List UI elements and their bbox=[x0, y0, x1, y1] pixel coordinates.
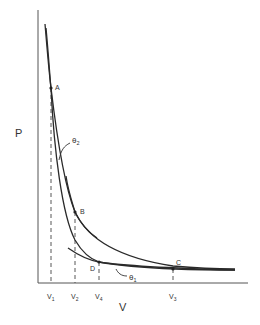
theta2-label: θ2 bbox=[72, 136, 80, 146]
theta1-label: θ1 bbox=[129, 273, 137, 283]
point-b-marker bbox=[73, 210, 76, 213]
pv-diagram: P V A B D C θ2 θ1 V1 V2 V4 V3 bbox=[0, 0, 260, 325]
v-axis-label: V bbox=[119, 301, 127, 313]
theta1-pointer-arrow bbox=[116, 269, 127, 276]
v2-tick-label: V2 bbox=[71, 293, 79, 302]
point-a-label: A bbox=[55, 84, 60, 91]
v4-tick-label: V4 bbox=[95, 293, 103, 302]
adiabat-a-d-curve bbox=[46, 28, 235, 270]
point-d-label: D bbox=[90, 265, 95, 272]
p-axis-label: P bbox=[15, 127, 22, 139]
point-c-label: C bbox=[176, 259, 181, 266]
point-c-marker bbox=[171, 267, 174, 270]
point-d-marker bbox=[97, 260, 100, 263]
isotherm-theta2-curve bbox=[45, 24, 235, 269]
v3-tick-label: V3 bbox=[169, 293, 177, 302]
v1-tick-label: V1 bbox=[47, 293, 55, 302]
point-a-marker bbox=[49, 86, 52, 89]
point-b-label: B bbox=[80, 208, 85, 215]
